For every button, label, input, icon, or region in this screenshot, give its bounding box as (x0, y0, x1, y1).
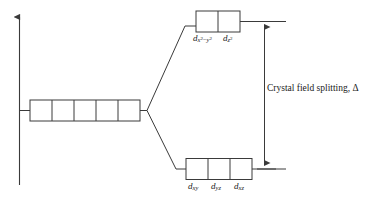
orbital-label-dx2y2-text: dx2−y2 (193, 33, 212, 43)
free-ion-level-group (20, 100, 141, 121)
branch-line-lower (147, 111, 176, 170)
correlation-lines-group (140, 26, 196, 169)
crystal-field-splitting-caption: Crystal field splitting, Δ (267, 83, 359, 93)
orbital-label-dxz-text: dxz (234, 181, 244, 191)
orbital-label-dz2: dz2 (223, 34, 233, 44)
lower-box-outline (186, 159, 252, 180)
orbital-label-dyz: dyz (211, 182, 221, 192)
free-ion-box-outline (30, 100, 140, 121)
orbital-label-dxy: dxy (188, 182, 198, 192)
branch-line-upper (147, 26, 185, 111)
orbital-label-dz2-text: dz2 (223, 33, 233, 43)
orbital-label-dxz: dxz (234, 182, 244, 192)
orbital-label-dxy-text: dxy (188, 181, 198, 191)
diagram-canvas (0, 0, 389, 204)
crystal-field-splitting-diagram: dx2−y2 dz2 dxy dyz dxz Crystal field spl… (0, 0, 389, 204)
crystal-field-splitting-arrow (257, 22, 276, 170)
orbital-label-dyz-text: dyz (211, 181, 221, 191)
orbital-label-dx2y2: dx2−y2 (193, 34, 212, 44)
